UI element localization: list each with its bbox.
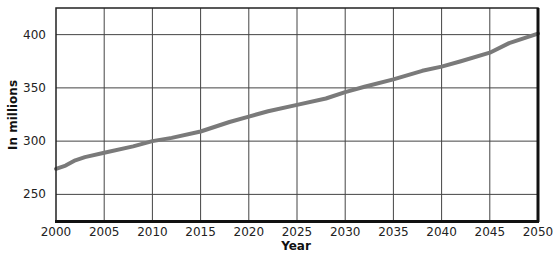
x-tick-label: 2010: [137, 225, 168, 239]
grid-lines: [56, 8, 538, 221]
y-tick-label: 300: [23, 134, 46, 148]
x-tick-label: 2045: [475, 225, 506, 239]
x-tick-label: 2030: [330, 225, 361, 239]
x-tick-label: 2025: [282, 225, 313, 239]
x-tick-label: 2035: [378, 225, 409, 239]
x-tick-label: 2000: [41, 225, 72, 239]
y-axis-title: In millions: [6, 80, 20, 150]
x-axis-ticks: 2000200520102015202020252030203520402045…: [41, 225, 553, 239]
y-tick-label: 350: [23, 81, 46, 95]
x-tick-label: 2020: [234, 225, 265, 239]
x-tick-label: 2015: [185, 225, 216, 239]
line-chart: 250300350400 200020052010201520202025203…: [0, 0, 553, 261]
x-tick-label: 2005: [89, 225, 120, 239]
x-axis-title: Year: [280, 239, 311, 253]
y-tick-label: 250: [23, 187, 46, 201]
y-axis-ticks: 250300350400: [23, 28, 46, 202]
x-tick-label: 2040: [426, 225, 457, 239]
y-tick-label: 400: [23, 28, 46, 42]
x-tick-label: 2050: [523, 225, 553, 239]
